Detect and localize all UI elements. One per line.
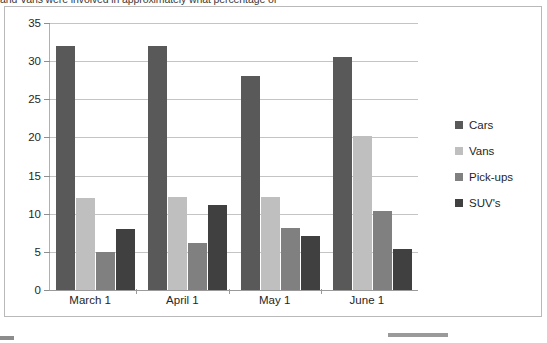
bar: [116, 229, 135, 290]
bar: [96, 252, 115, 290]
legend-label: Pick-ups: [469, 171, 513, 183]
legend-swatch-icon: [455, 199, 463, 207]
y-tick-label: 15: [28, 170, 41, 182]
y-tick-label: 5: [35, 246, 41, 258]
x-axis-label: March 1: [69, 294, 111, 306]
bar-group: [333, 23, 413, 290]
y-tick-label: 10: [28, 208, 41, 220]
y-tick-label: 0: [35, 284, 41, 296]
legend-label: Vans: [469, 145, 494, 157]
x-tick-mark: [136, 289, 137, 294]
y-tick-label: 35: [28, 17, 41, 29]
page-artifact-right: [388, 333, 448, 337]
bar: [353, 136, 372, 290]
legend-item-suv-s[interactable]: SUV's: [455, 192, 539, 213]
x-axis-label: April 1: [166, 294, 199, 306]
bar: [76, 198, 95, 290]
legend-item-cars[interactable]: Cars: [455, 114, 539, 135]
bar: [241, 76, 260, 290]
chart-legend: CarsVansPick-upsSUV's: [455, 114, 539, 218]
bar: [281, 228, 300, 290]
x-tick-mark: [229, 289, 230, 294]
legend-label: SUV's: [469, 197, 501, 209]
x-axis-label: May 1: [259, 294, 290, 306]
bar: [168, 197, 187, 290]
bar: [208, 205, 227, 290]
legend-swatch-icon: [455, 121, 463, 129]
legend-item-vans[interactable]: Vans: [455, 140, 539, 161]
bars-layer: [49, 23, 418, 290]
bar: [373, 211, 392, 290]
bar-group: [241, 23, 321, 290]
legend-label: Cars: [469, 119, 493, 131]
page-artifact-left: [0, 336, 14, 340]
y-tick-label: 30: [28, 55, 41, 67]
y-tick-label: 25: [28, 93, 41, 105]
bar: [148, 46, 167, 290]
bar: [261, 197, 280, 290]
x-tick-mark: [321, 289, 322, 294]
x-axis-labels: March 1April 1May 1June 1: [44, 289, 413, 311]
bar: [301, 236, 320, 290]
bar: [188, 243, 207, 290]
legend-swatch-icon: [455, 147, 463, 155]
bar: [393, 249, 412, 290]
y-tick-label: 20: [28, 131, 41, 143]
bar-group: [148, 23, 228, 290]
bar: [56, 46, 75, 290]
x-axis-label: June 1: [350, 294, 385, 306]
plot-area: 05101520253035: [49, 23, 418, 290]
bar: [333, 57, 352, 290]
bar-group: [56, 23, 136, 290]
legend-swatch-icon: [455, 173, 463, 181]
legend-item-pick-ups[interactable]: Pick-ups: [455, 166, 539, 187]
